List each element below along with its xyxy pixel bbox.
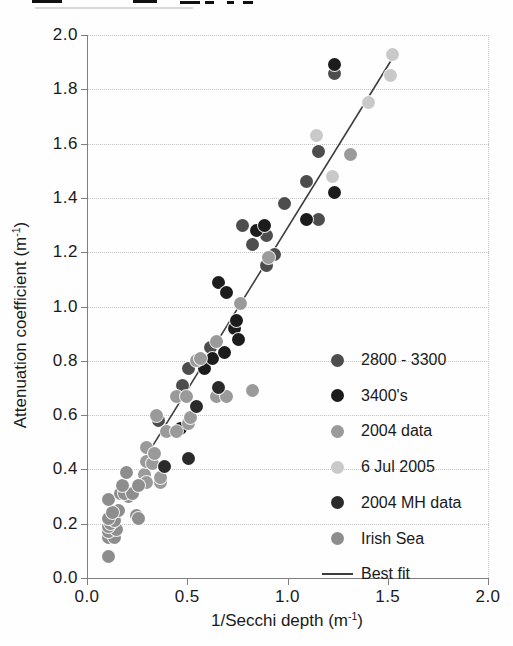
legend-marker-dot bbox=[331, 354, 344, 367]
y-tick-label: 2.0 bbox=[36, 25, 78, 45]
x-axis-title: 1/Secchi depth (m-1) bbox=[211, 610, 363, 631]
scatter-plot-figure: Attenuation coefficient (m-1) 1/Secchi d… bbox=[0, 0, 513, 646]
scatter-point bbox=[120, 466, 133, 479]
scatter-point bbox=[230, 314, 243, 327]
legend-item-label: 2800 - 3300 bbox=[361, 351, 446, 369]
y-tick-mark bbox=[81, 415, 87, 416]
legend-item-label: 2004 data bbox=[361, 422, 432, 440]
scatter-point bbox=[278, 197, 291, 210]
legend-item-label: 3400's bbox=[361, 387, 408, 405]
scatter-point bbox=[262, 251, 275, 264]
legend-item: 2004 MH data bbox=[322, 493, 462, 513]
scatter-point bbox=[150, 409, 163, 422]
y-tick-label: 1.0 bbox=[36, 297, 78, 317]
legend-item: Irish Sea bbox=[322, 529, 424, 549]
y-tick-label: 1.6 bbox=[36, 134, 78, 154]
y-tick-mark bbox=[81, 89, 87, 90]
legend-marker-dot bbox=[331, 532, 344, 545]
y-tick-mark bbox=[81, 524, 87, 525]
legend-marker-dot bbox=[331, 425, 344, 438]
x-tick-label: 0.0 bbox=[65, 587, 109, 607]
scatter-point bbox=[218, 346, 231, 359]
y-axis-title: Attenuation coefficient (m-1) bbox=[10, 222, 31, 429]
legend-item: 3400's bbox=[322, 386, 408, 406]
scatter-point bbox=[170, 425, 183, 438]
y-tick-label: 1.8 bbox=[36, 79, 78, 99]
scatter-point bbox=[116, 479, 129, 492]
x-tick-mark bbox=[87, 579, 88, 585]
x-tick-label: 2.0 bbox=[466, 587, 510, 607]
scatter-point bbox=[386, 48, 399, 61]
y-tick-label: 0.8 bbox=[36, 351, 78, 371]
y-tick-mark bbox=[81, 252, 87, 253]
scatter-point bbox=[310, 129, 323, 142]
y-tick-label: 0.0 bbox=[36, 568, 78, 588]
x-tick-label: 1.5 bbox=[366, 587, 410, 607]
legend-marker-dot bbox=[331, 461, 344, 474]
x-tick-mark bbox=[288, 579, 289, 585]
scatter-point bbox=[328, 186, 341, 199]
scatter-point bbox=[246, 384, 259, 397]
legend-best-fit-line-sample bbox=[322, 573, 353, 575]
x-tick-mark bbox=[187, 579, 188, 585]
legend-item: 2004 data bbox=[322, 421, 432, 441]
legend-marker-dot bbox=[331, 389, 344, 402]
y-tick-label: 0.4 bbox=[36, 459, 78, 479]
legend-item-label: 6 Jul 2005 bbox=[361, 458, 435, 476]
scatter-point bbox=[232, 333, 245, 346]
legend-marker-dot bbox=[331, 496, 344, 509]
scatter-point bbox=[102, 493, 115, 506]
scatter-point bbox=[194, 352, 207, 365]
y-tick-label: 0.6 bbox=[36, 405, 78, 425]
y-tick-label: 1.2 bbox=[36, 242, 78, 262]
y-tick-mark bbox=[81, 307, 87, 308]
scatter-point bbox=[182, 452, 195, 465]
scatter-point bbox=[180, 390, 193, 403]
y-tick-mark bbox=[81, 361, 87, 362]
scatter-point bbox=[236, 219, 249, 232]
y-tick-mark bbox=[81, 144, 87, 145]
legend-item-best-fit: Best fit bbox=[322, 564, 410, 584]
y-tick-label: 0.2 bbox=[36, 514, 78, 534]
x-axis-unit-superscript: -1 bbox=[348, 610, 357, 622]
scatter-point bbox=[132, 479, 145, 492]
scatter-point bbox=[106, 506, 119, 519]
y-tick-mark bbox=[81, 469, 87, 470]
x-tick-label: 1.0 bbox=[266, 587, 310, 607]
y-tick-mark bbox=[81, 35, 87, 36]
scatter-point bbox=[206, 352, 219, 365]
scatter-point bbox=[132, 512, 145, 525]
scatter-point bbox=[258, 219, 271, 232]
scatter-point bbox=[102, 550, 115, 563]
scatter-point bbox=[148, 447, 161, 460]
scatter-point bbox=[184, 411, 197, 424]
y-tick-mark bbox=[81, 198, 87, 199]
scatter-point bbox=[326, 170, 339, 183]
x-tick-mark bbox=[488, 579, 489, 585]
y-axis-unit-superscript: -1 bbox=[10, 227, 22, 236]
legend-item-label: Irish Sea bbox=[361, 530, 424, 548]
legend-item: 6 Jul 2005 bbox=[322, 457, 435, 477]
x-tick-label: 0.5 bbox=[165, 587, 209, 607]
legend-item-label: Best fit bbox=[361, 565, 410, 583]
y-tick-label: 1.4 bbox=[36, 188, 78, 208]
legend-item-label: 2004 MH data bbox=[361, 494, 462, 512]
scatter-point bbox=[246, 238, 259, 251]
scatter-point bbox=[158, 460, 171, 473]
legend-item: 2800 - 3300 bbox=[322, 350, 446, 370]
scatter-point bbox=[344, 148, 357, 161]
